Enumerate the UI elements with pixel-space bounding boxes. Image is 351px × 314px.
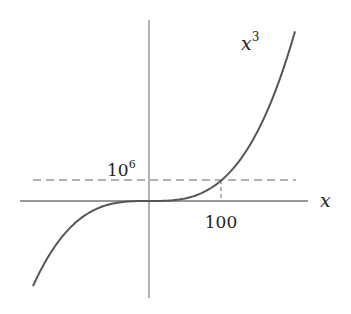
x-marker-label: 100 <box>205 212 237 232</box>
x-axis-label: x <box>320 189 331 211</box>
cubic-function-diagram: x3 x 106 100 <box>0 0 351 314</box>
cubic-curve <box>33 31 295 286</box>
y-marker-label: 106 <box>107 158 136 180</box>
function-label: x3 <box>241 30 259 54</box>
